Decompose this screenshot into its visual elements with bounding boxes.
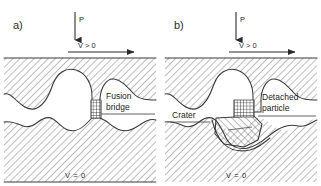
panel-a: a) P V > 0 Fus — [4, 12, 156, 182]
panel-a-load-arrow: P — [75, 12, 84, 40]
panel-a-letter: a) — [13, 19, 23, 31]
panel-a-load-arrow-label: P — [79, 15, 84, 24]
panel-b-load-arrow: P — [236, 12, 245, 40]
panel-a-fusion-bridge — [91, 100, 101, 118]
panel-a-velocity-arrow: V > 0 — [68, 41, 134, 52]
figure-container: a) P V > 0 Fus — [0, 0, 321, 186]
panel-a-bottom-label: V = 0 — [65, 171, 86, 180]
panel-a-upper-body — [4, 56, 156, 116]
panel-b-bottom-label: V = 0 — [226, 171, 247, 180]
panel-a-velocity-arrow-label: V > 0 — [78, 41, 96, 50]
detached-particle-label-line2: particle — [262, 103, 290, 113]
panel-b-velocity-arrow-label: V > 0 — [239, 41, 257, 50]
panel-b-letter: b) — [174, 19, 184, 31]
panel-b-fusion-neck — [234, 100, 254, 117]
fusion-bridge-label-line2: bridge — [106, 102, 130, 112]
detached-particle-label-line1: Detached — [262, 92, 299, 102]
panel-b-velocity-arrow: V > 0 — [229, 41, 295, 52]
fusion-bridge-label-line1: Fusion — [106, 91, 132, 101]
crater-label: Crater — [172, 110, 196, 120]
diagram-svg: a) P V > 0 Fus — [0, 0, 321, 186]
panel-b: b) P V > 0 — [165, 12, 317, 182]
panel-b-load-arrow-label: P — [240, 15, 245, 24]
